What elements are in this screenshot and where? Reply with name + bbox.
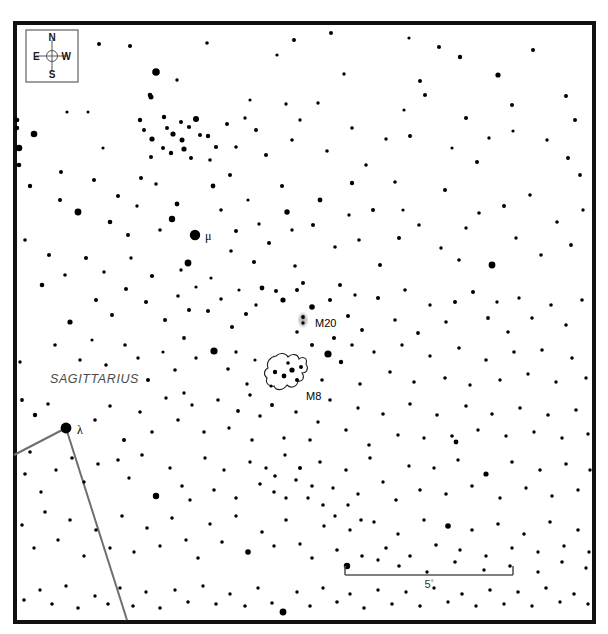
star — [310, 343, 314, 347]
star — [92, 178, 96, 182]
star — [163, 318, 167, 322]
star — [306, 496, 309, 499]
star — [164, 396, 167, 399]
star — [364, 163, 368, 167]
star — [258, 414, 262, 418]
star — [15, 118, 20, 123]
star — [346, 503, 349, 506]
m8-member-star — [299, 365, 303, 369]
star — [206, 309, 210, 313]
star — [173, 588, 176, 591]
star — [401, 208, 404, 211]
star — [110, 313, 114, 317]
m8-member-star — [269, 384, 272, 387]
star — [144, 300, 148, 304]
star — [328, 298, 332, 302]
star — [150, 274, 154, 278]
star — [228, 173, 232, 177]
star — [388, 370, 392, 374]
star — [252, 260, 256, 264]
star — [384, 546, 388, 550]
star — [498, 378, 501, 381]
star — [23, 472, 27, 476]
star — [489, 262, 496, 269]
star — [138, 118, 142, 122]
star — [328, 398, 332, 402]
star — [495, 300, 498, 303]
star — [309, 304, 315, 310]
star — [295, 288, 299, 292]
star — [219, 208, 223, 212]
star — [490, 412, 494, 416]
star — [165, 126, 169, 130]
star — [206, 134, 210, 138]
star — [372, 520, 375, 523]
star — [280, 184, 284, 188]
star — [376, 296, 380, 300]
star — [581, 208, 584, 211]
star — [270, 403, 274, 407]
star — [353, 293, 356, 296]
star — [243, 604, 247, 608]
star-chart: μλM20M8SAGITTARIUS 5° NSEW — [0, 0, 608, 634]
star — [372, 350, 375, 353]
star — [487, 136, 490, 139]
star — [332, 336, 336, 340]
star — [518, 406, 522, 410]
star — [222, 468, 225, 471]
star — [116, 458, 120, 462]
star — [418, 488, 422, 492]
m8-member-star — [286, 361, 290, 365]
star — [295, 330, 299, 334]
star — [530, 604, 533, 607]
star — [256, 586, 259, 589]
star — [445, 523, 451, 529]
star — [422, 436, 425, 439]
star — [75, 209, 82, 216]
star — [225, 122, 229, 126]
star — [106, 602, 110, 606]
star — [508, 564, 512, 568]
star — [258, 482, 262, 486]
star — [558, 600, 561, 603]
star — [524, 486, 527, 489]
star — [228, 592, 231, 595]
star — [127, 476, 130, 479]
star — [359, 518, 363, 522]
star — [517, 296, 520, 299]
star — [211, 184, 216, 189]
star — [123, 343, 127, 347]
star — [488, 588, 492, 592]
star — [154, 182, 158, 186]
m8-member-star — [282, 374, 287, 379]
star — [70, 456, 74, 460]
star — [284, 209, 289, 214]
star — [356, 492, 359, 495]
star — [234, 145, 238, 149]
star — [408, 134, 412, 138]
star — [357, 238, 361, 242]
star — [97, 42, 101, 46]
star — [470, 484, 474, 488]
star — [512, 350, 516, 354]
star — [135, 204, 138, 207]
star — [555, 220, 559, 224]
star — [450, 434, 454, 438]
star — [144, 590, 147, 593]
star — [310, 484, 314, 488]
mu-star-label: μ — [205, 229, 211, 243]
star — [260, 530, 264, 534]
star — [458, 55, 462, 59]
star — [476, 428, 479, 431]
star — [408, 554, 412, 558]
star — [417, 223, 421, 227]
star — [546, 413, 550, 417]
star — [360, 554, 364, 558]
star — [188, 498, 191, 501]
star — [182, 336, 186, 340]
star — [308, 604, 312, 608]
star — [250, 438, 254, 442]
star — [270, 601, 274, 605]
star — [453, 300, 457, 304]
star — [368, 456, 372, 460]
